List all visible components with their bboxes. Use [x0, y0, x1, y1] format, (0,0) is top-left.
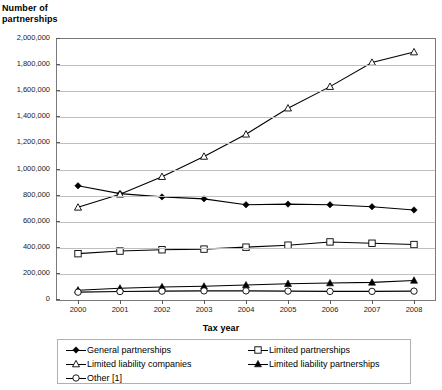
- y-axis-tick-mark: [56, 195, 60, 196]
- x-axis-tick-mark: [120, 300, 121, 304]
- y-axis-tick-mark: [56, 142, 60, 143]
- legend-marker-open-triangle-icon: [66, 358, 86, 370]
- gridline: [57, 222, 435, 223]
- y-axis-tick-mark: [56, 116, 60, 117]
- x-axis-tick-mark: [330, 300, 331, 304]
- gridline: [57, 170, 435, 171]
- data-point-marker: [75, 183, 81, 189]
- legend-marker-open-square-icon: [248, 344, 268, 356]
- gridline: [57, 65, 435, 66]
- data-point-marker: [159, 288, 165, 294]
- legend-item[interactable]: Limited liability companies: [66, 357, 192, 371]
- data-point-marker: [201, 288, 207, 294]
- legend-item-label: Other [1]: [87, 373, 122, 383]
- series-line: [78, 52, 414, 207]
- chart-legend: General partnershipsLimited partnerships…: [57, 339, 411, 384]
- x-axis-tick-mark: [288, 300, 289, 304]
- x-axis-tick-label: 2008: [394, 305, 434, 314]
- data-point-marker: [327, 202, 333, 208]
- data-point-marker: [117, 288, 123, 294]
- gridline: [57, 117, 435, 118]
- data-point-marker: [243, 131, 250, 137]
- line-chart-figure: Number of partnerships Tax year General …: [0, 0, 442, 390]
- data-point-marker: [201, 196, 207, 202]
- y-axis-tick-label: 800,000: [0, 191, 50, 199]
- y-axis-tick-label: 1,800,000: [0, 60, 50, 68]
- gridline: [57, 143, 435, 144]
- y-axis-tick-mark: [56, 38, 60, 39]
- y-axis-tick-label: 0: [0, 295, 50, 303]
- y-axis-tick-label: 2,000,000: [0, 34, 50, 42]
- legend-marker-filled-diamond-icon: [66, 344, 86, 356]
- x-axis-title: Tax year: [0, 323, 442, 334]
- y-axis-tick-label: 1,000,000: [0, 165, 50, 173]
- x-axis-tick-mark: [414, 300, 415, 304]
- y-axis-tick-label: 200,000: [0, 269, 50, 277]
- data-point-marker: [369, 203, 375, 209]
- x-axis-tick-mark: [78, 300, 79, 304]
- x-axis-tick-mark: [204, 300, 205, 304]
- plot-area: [56, 38, 436, 301]
- y-axis-title-line1: Number of: [2, 3, 92, 14]
- data-point-marker: [285, 288, 291, 294]
- y-axis-tick-label: 1,600,000: [0, 86, 50, 94]
- y-axis-tick-mark: [56, 169, 60, 170]
- legend-item[interactable]: Limited liability partnerships: [248, 357, 380, 371]
- x-axis-tick-label: 2002: [142, 305, 182, 314]
- legend-marker-open-circle-icon: [66, 372, 86, 384]
- y-axis-title-line2: partnerships: [2, 14, 92, 25]
- data-point-marker: [327, 239, 333, 245]
- data-point-marker: [243, 288, 249, 294]
- gridline: [57, 248, 435, 249]
- x-axis-tick-label: 2000: [58, 305, 98, 314]
- y-axis-tick-label: 1,200,000: [0, 138, 50, 146]
- x-axis-tick-mark: [162, 300, 163, 304]
- data-point-marker: [201, 153, 208, 159]
- x-axis-tick-label: 2007: [352, 305, 392, 314]
- legend-item[interactable]: General partnerships: [66, 343, 171, 357]
- data-point-marker: [243, 202, 249, 208]
- x-axis-tick-mark: [246, 300, 247, 304]
- data-series: [75, 48, 418, 210]
- data-point-marker: [411, 207, 417, 213]
- gridline: [57, 91, 435, 92]
- y-axis-tick-label: 1,400,000: [0, 112, 50, 120]
- data-point-marker: [285, 201, 291, 207]
- data-point-marker: [411, 288, 417, 294]
- data-point-marker: [327, 83, 334, 89]
- y-axis-tick-mark: [56, 247, 60, 248]
- x-axis-tick-label: 2003: [184, 305, 224, 314]
- legend-item-label: Limited liability companies: [87, 359, 192, 369]
- data-point-marker: [75, 250, 81, 256]
- data-point-marker: [75, 289, 81, 295]
- y-axis-tick-mark: [56, 299, 60, 300]
- gridline: [57, 274, 435, 275]
- x-axis-tick-label: 2005: [268, 305, 308, 314]
- legend-item-label: General partnerships: [87, 345, 171, 355]
- y-axis-tick-mark: [56, 221, 60, 222]
- y-axis-tick-label: 600,000: [0, 217, 50, 225]
- x-axis-tick-label: 2006: [310, 305, 350, 314]
- legend-item-label: Limited partnerships: [269, 345, 350, 355]
- y-axis-tick-label: 400,000: [0, 243, 50, 251]
- data-series: [75, 183, 417, 214]
- legend-item[interactable]: Other [1]: [66, 371, 122, 385]
- data-point-marker: [117, 248, 123, 254]
- y-axis-tick-mark: [56, 64, 60, 65]
- x-axis-tick-label: 2004: [226, 305, 266, 314]
- legend-marker-filled-triangle-icon: [248, 358, 268, 370]
- x-axis-tick-label: 2001: [100, 305, 140, 314]
- data-point-marker: [327, 288, 333, 294]
- legend-item-label: Limited liability partnerships: [269, 359, 380, 369]
- y-axis-tick-mark: [56, 273, 60, 274]
- data-point-marker: [285, 105, 292, 111]
- data-point-marker: [159, 173, 166, 179]
- x-axis-tick-mark: [372, 300, 373, 304]
- data-series: [75, 288, 417, 296]
- data-point-marker: [411, 48, 418, 54]
- y-axis-tick-mark: [56, 90, 60, 91]
- data-point-marker: [369, 288, 375, 294]
- legend-item[interactable]: Limited partnerships: [248, 343, 350, 357]
- data-point-marker: [411, 241, 417, 247]
- y-axis-title: Number of partnerships: [2, 3, 92, 25]
